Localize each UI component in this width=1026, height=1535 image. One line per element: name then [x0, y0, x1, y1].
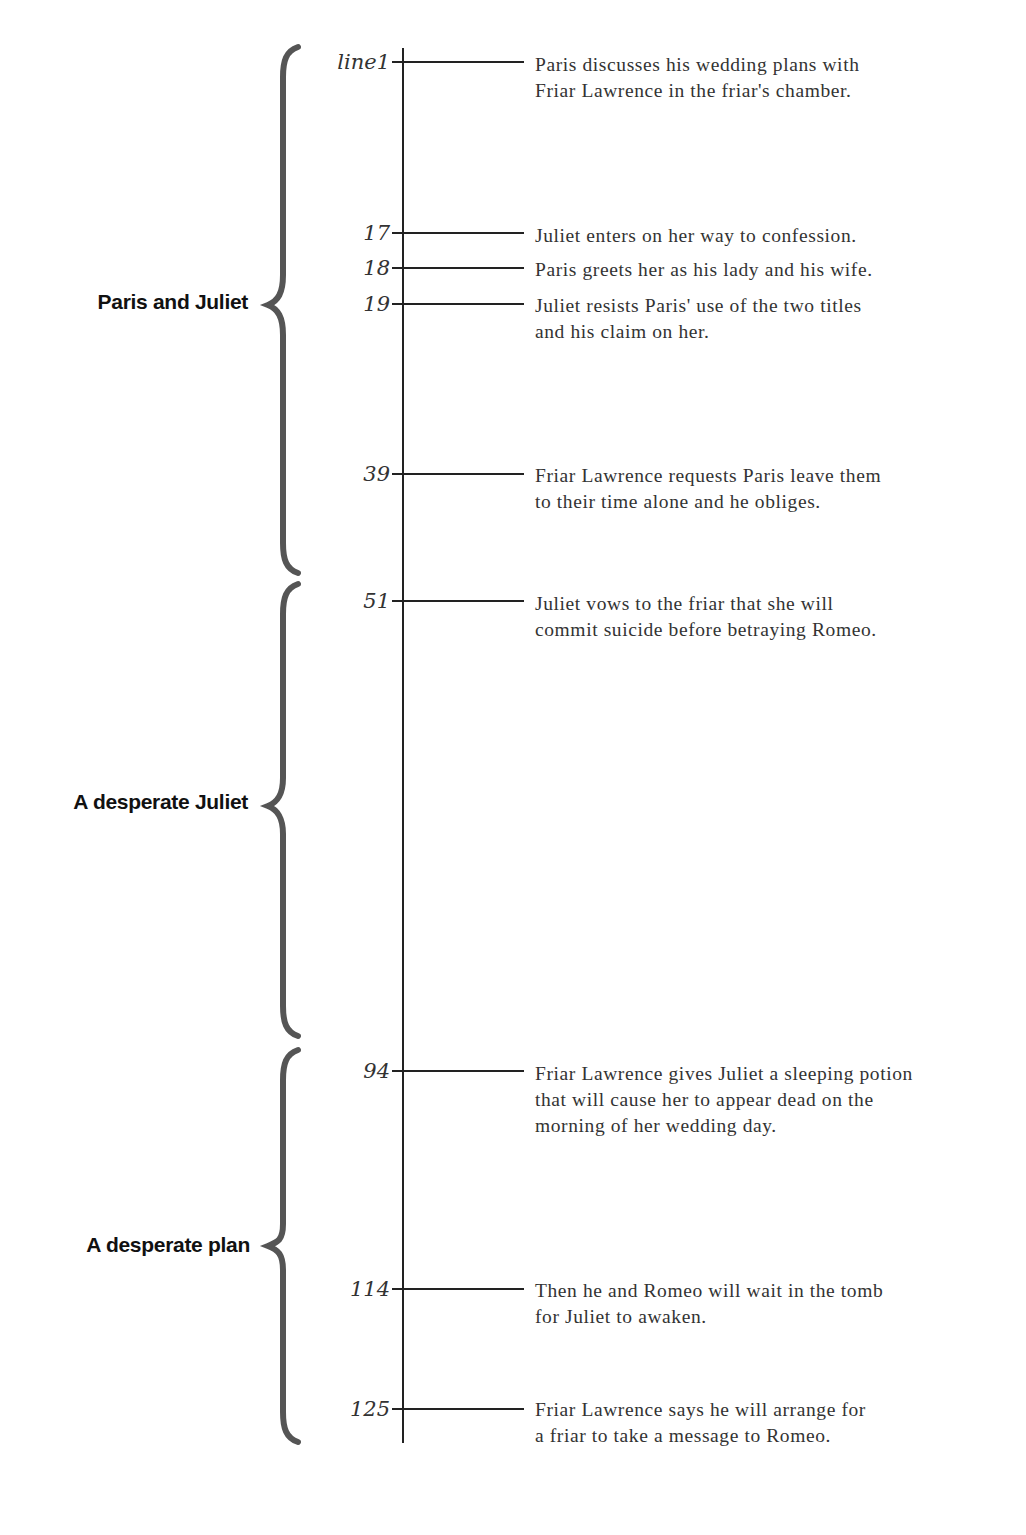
- tick-mark: [392, 232, 524, 234]
- tick-mark: [392, 303, 524, 305]
- tick-mark: [392, 1288, 524, 1290]
- tick-mark: [392, 61, 524, 63]
- line-number-label: 125: [300, 1399, 390, 1420]
- event-description: Friar Lawrence requests Paris leave them…: [535, 463, 881, 515]
- line-number-label: 51: [300, 591, 390, 612]
- event-description: Friar Lawrence says he will arrange for …: [535, 1397, 866, 1449]
- tick-mark: [392, 267, 524, 269]
- curly-brace-icon: [262, 45, 302, 575]
- tick-mark: [392, 1408, 524, 1410]
- tick-mark: [392, 600, 524, 602]
- event-description: Friar Lawrence gives Juliet a sleeping p…: [535, 1061, 913, 1139]
- event-description: Juliet resists Paris' use of the two tit…: [535, 293, 862, 345]
- event-description: Paris discusses his wedding plans with F…: [535, 52, 860, 104]
- curly-brace-icon: [262, 582, 302, 1038]
- event-description: Juliet enters on her way to confession.: [535, 223, 857, 249]
- line-number-label: 19: [300, 294, 390, 315]
- section-label: Paris and Juliet: [8, 290, 248, 314]
- timeline-axis: [402, 48, 404, 1443]
- event-description: Paris greets her as his lady and his wif…: [535, 257, 873, 283]
- line-number-label: line1: [300, 52, 390, 73]
- section-label: A desperate plan: [10, 1233, 250, 1257]
- section-label: A desperate Juliet: [8, 790, 248, 814]
- event-description: Then he and Romeo will wait in the tomb …: [535, 1278, 883, 1330]
- tick-mark: [392, 1070, 524, 1072]
- line-number-label: 94: [300, 1061, 390, 1082]
- line-number-label: 114: [300, 1279, 390, 1300]
- tick-mark: [392, 473, 524, 475]
- line-number-label: 39: [300, 464, 390, 485]
- event-description: Juliet vows to the friar that she will c…: [535, 591, 877, 643]
- curly-brace-icon: [262, 1048, 302, 1444]
- line-number-label: 18: [300, 258, 390, 279]
- line-number-label: 17: [300, 223, 390, 244]
